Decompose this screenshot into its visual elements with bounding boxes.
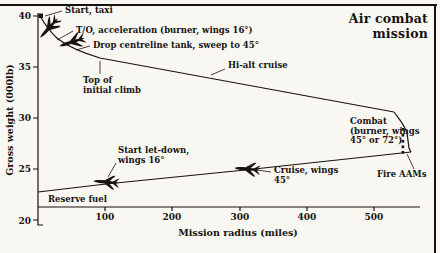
leader-cruise: [257, 170, 271, 172]
annotation-cruise: Cruise, wings 45°: [274, 166, 338, 185]
annotation-start-taxi: Start, taxi: [65, 6, 113, 16]
y-axis-ticks: [33, 16, 38, 220]
start-marker: [39, 14, 44, 19]
y-axis-line: [38, 13, 43, 225]
annotation-fire-aams: Fire AAMs: [377, 170, 427, 180]
mission-profile-figure: Air combat mission 40 35 30 25 20 100 20…: [0, 0, 440, 253]
annotation-to-acceleration: T/O, acceleration (burner, wings 16°): [76, 26, 253, 36]
annotation-drop-tank: Drop centreline tank, sweep to 45°: [93, 41, 259, 51]
annotation-combat: Combat (burner, wings 45° or 72°): [350, 117, 419, 146]
return-path: [38, 152, 411, 192]
aircraft-cruise-icon: [234, 161, 261, 177]
leader-fire-aams: [407, 154, 414, 169]
annotation-top-of-climb: Top of initial climb: [83, 76, 141, 95]
leader-hi-alt-cruise: [211, 69, 225, 75]
annotation-hi-alt-cruise: Hi-alt cruise: [228, 61, 288, 71]
leader-start-taxi: [45, 11, 62, 16]
aircraft-letdown-icon: [93, 174, 120, 190]
x-axis-ticks: [105, 207, 374, 211]
annotation-reserve-fuel: Reserve fuel: [48, 195, 107, 205]
leader-to-acceleration: [57, 31, 73, 40]
annotation-start-letdown: Start let-down, wings 16°: [118, 146, 189, 165]
leader-drop-tank: [76, 46, 90, 50]
leader-start-letdown: [108, 163, 116, 177]
